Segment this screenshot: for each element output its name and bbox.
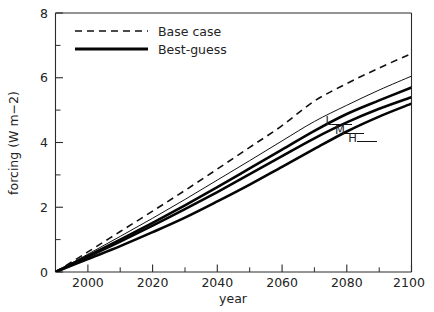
- series-group: [56, 53, 412, 272]
- y-tick-label-6: 6: [40, 70, 48, 85]
- series-line-upper-thin: [56, 76, 412, 272]
- series-label-l: L: [326, 114, 333, 128]
- series-label-h: H: [348, 131, 357, 145]
- plot-axes: [56, 13, 412, 272]
- x-axis-tick-labels: 2000 2020 2040 2060 2080 2100: [72, 275, 425, 290]
- y-tick-label-2: 2: [40, 200, 48, 215]
- x-tick-label-2040: 2040: [201, 275, 233, 290]
- x-tick-label-2020: 2020: [137, 275, 169, 290]
- series-line-base-case: [56, 53, 412, 272]
- chart-legend: Base case Best-guess: [75, 24, 227, 57]
- x-tick-label-2080: 2080: [331, 275, 363, 290]
- x-axis-title: year: [219, 291, 248, 306]
- x-axis-minor-ticks: [120, 267, 379, 272]
- y-axis-title: forcing (W m−2): [6, 91, 21, 195]
- chart-figure: 0 2 4 6 8 2000 2020 2040 2060 2080 2100 …: [0, 0, 434, 312]
- y-axis-tick-labels: 0 2 4 6 8: [40, 6, 48, 280]
- legend-label-best-guess: Best-guess: [158, 42, 227, 57]
- x-tick-label-2100: 2100: [393, 275, 425, 290]
- y-tick-label-8: 8: [40, 6, 48, 21]
- y-tick-label-4: 4: [40, 135, 48, 150]
- series-line-m: [56, 97, 412, 272]
- x-tick-label-2060: 2060: [266, 275, 298, 290]
- forcing-vs-year-line-chart: 0 2 4 6 8 2000 2020 2040 2060 2080 2100 …: [0, 0, 434, 312]
- legend-label-base-case: Base case: [158, 24, 221, 39]
- x-tick-label-2000: 2000: [72, 275, 104, 290]
- series-label-m: M: [335, 123, 345, 137]
- y-axis-major-ticks: [56, 13, 64, 272]
- y-tick-label-0: 0: [40, 265, 48, 280]
- series-line-l: [56, 87, 412, 272]
